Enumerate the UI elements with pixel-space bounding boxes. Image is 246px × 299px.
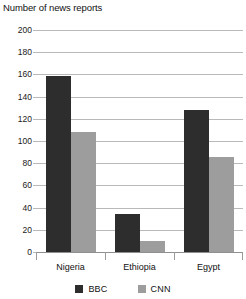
legend-label: CNN bbox=[151, 284, 171, 294]
y-axis-tick-label: 180 bbox=[0, 48, 32, 57]
bars-layer bbox=[36, 30, 243, 252]
x-axis-tick-mark bbox=[36, 252, 37, 260]
bar-nigeria-cnn bbox=[71, 132, 96, 252]
bar-ethiopia-cnn bbox=[140, 241, 165, 252]
legend-label: BBC bbox=[88, 284, 107, 294]
chart-legend: BBCCNN bbox=[0, 281, 246, 297]
x-axis-label-egypt: Egypt bbox=[174, 262, 243, 272]
y-axis-tick-label: 160 bbox=[0, 70, 32, 79]
y-axis-tick-label: 140 bbox=[0, 93, 32, 102]
bar-egypt-bbc bbox=[184, 110, 209, 252]
x-axis-tick-mark bbox=[242, 252, 243, 260]
y-axis-tick-label: 100 bbox=[0, 137, 32, 146]
legend-item-cnn[interactable]: CNN bbox=[138, 284, 171, 294]
x-axis-tick-mark bbox=[174, 252, 175, 260]
chart-title: Number of news reports bbox=[3, 2, 102, 13]
legend-swatch-icon bbox=[138, 285, 146, 293]
y-axis-tick-label: 0 bbox=[0, 248, 32, 257]
y-axis-tick-label: 40 bbox=[0, 204, 32, 213]
y-axis-tick-label: 120 bbox=[0, 115, 32, 124]
x-axis-category-labels: NigeriaEthiopiaEgypt bbox=[36, 262, 243, 276]
bar-chart: Number of news reports 20018016014012010… bbox=[0, 0, 246, 299]
x-axis-label-ethiopia: Ethiopia bbox=[105, 262, 174, 272]
x-axis-tick-mark bbox=[105, 252, 106, 260]
y-axis-tick-label: 20 bbox=[0, 226, 32, 235]
legend-swatch-icon bbox=[75, 285, 83, 293]
bar-ethiopia-bbc bbox=[115, 214, 140, 252]
x-axis-ticks bbox=[36, 252, 243, 261]
legend-item-bbc[interactable]: BBC bbox=[75, 284, 107, 294]
bar-egypt-cnn bbox=[209, 157, 234, 252]
x-axis-label-nigeria: Nigeria bbox=[36, 262, 105, 272]
plot-area bbox=[36, 30, 243, 252]
y-axis-tick-label: 60 bbox=[0, 181, 32, 190]
bar-nigeria-bbc bbox=[46, 76, 71, 252]
y-axis-tick-label: 200 bbox=[0, 26, 32, 35]
y-axis-tick-label: 80 bbox=[0, 159, 32, 168]
